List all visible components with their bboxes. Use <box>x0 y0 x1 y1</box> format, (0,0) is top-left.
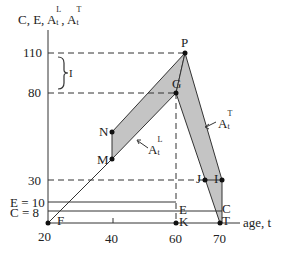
arrow-AL <box>138 141 148 148</box>
x-axis-label: age, t <box>243 216 271 229</box>
x-tick-60: 60 <box>169 232 182 245</box>
x-tick-40: 40 <box>105 232 118 245</box>
brace-I <box>58 57 68 89</box>
point-M <box>110 157 115 162</box>
brace-label: I <box>69 67 73 80</box>
y-tick-30: 30 <box>28 174 41 187</box>
label-F: F <box>57 214 64 227</box>
x-tick-70: 70 <box>213 232 226 245</box>
label-J: J <box>196 172 201 185</box>
label-I: I <box>214 172 218 185</box>
area-label-AT: ATt <box>218 117 227 130</box>
label-N: N <box>99 125 108 138</box>
point-I <box>220 178 225 183</box>
y-tick-80: 80 <box>28 86 41 99</box>
point-G <box>174 91 179 96</box>
point-F <box>46 221 51 226</box>
label-T: T <box>222 214 230 227</box>
x-tick-20: 20 <box>38 230 51 243</box>
label-G: G <box>172 77 181 90</box>
y-tick-110: 110 <box>23 46 42 59</box>
label-M: M <box>97 153 109 166</box>
y-tick-C: C = 8 <box>10 206 39 219</box>
point-P <box>183 51 188 56</box>
shaded-area-AT <box>176 53 222 223</box>
label-P: P <box>181 36 188 49</box>
point-N <box>110 130 115 135</box>
label-K: K <box>179 215 188 228</box>
point-K <box>174 221 179 226</box>
y-axis-label: C, E, ALt, ATt <box>18 13 76 26</box>
area-label-AL: ALt <box>148 143 157 156</box>
point-J <box>203 178 208 183</box>
